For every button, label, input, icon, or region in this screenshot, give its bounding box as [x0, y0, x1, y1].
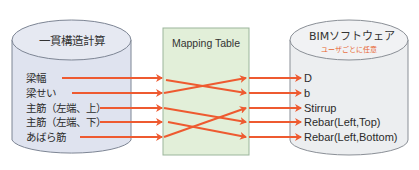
right-field-b: b [304, 87, 310, 99]
diagram-canvas [0, 0, 419, 170]
right-field-rebar-left-bottom: Rebar(Left,Bottom) [304, 131, 398, 143]
left-field-beam-width: 梁幅 [26, 72, 46, 84]
left-field-beam-depth: 梁せい [26, 87, 56, 99]
left-field-main-rebar-top: 主筋（左端、上） [26, 102, 106, 114]
left-db-title: 一貫構造計算 [32, 32, 112, 48]
right-db-title: BIMソフトウェア [309, 27, 389, 43]
mapping-table-title: Mapping Table [163, 37, 249, 49]
right-field-rebar-left-top: Rebar(Left,Top) [304, 116, 380, 128]
right-db-subtitle: ユーザごとに任意 [309, 44, 389, 54]
right-field-stirrup: Stirrup [304, 102, 336, 114]
left-field-main-rebar-bottom: 主筋（左端、下） [26, 116, 106, 128]
left-field-stirrup: あばら筋 [26, 131, 66, 143]
right-field-D: D [304, 72, 312, 84]
